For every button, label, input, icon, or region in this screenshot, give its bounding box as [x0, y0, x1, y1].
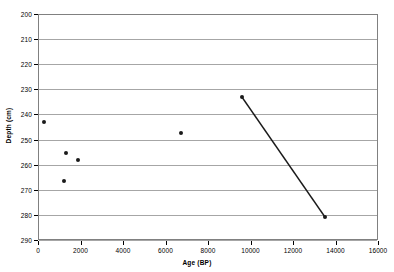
gridline-horizontal — [39, 165, 377, 166]
y-tick-label: 270 — [21, 186, 32, 193]
data-point — [64, 151, 68, 155]
plot-area — [38, 14, 378, 240]
x-tick-mark — [38, 241, 39, 245]
chart-container: Depth (cm) 20021022023024025026027028029… — [0, 0, 394, 272]
x-tick-label: 4000 — [116, 247, 131, 254]
y-tick-mark — [34, 114, 38, 115]
gridline-horizontal — [39, 140, 377, 141]
y-tick-label: 290 — [21, 237, 32, 244]
x-tick-label: 14000 — [326, 247, 345, 254]
y-tick-label: 200 — [21, 11, 32, 18]
data-point — [42, 120, 46, 124]
y-tick-label: 280 — [21, 211, 32, 218]
y-tick-label: 210 — [21, 36, 32, 43]
x-tick-mark — [81, 241, 82, 245]
y-tick-mark — [34, 215, 38, 216]
x-tick-mark — [166, 241, 167, 245]
y-axis-title: Depth (cm) — [5, 96, 12, 156]
y-tick-label: 260 — [21, 161, 32, 168]
data-point — [76, 158, 80, 162]
gridline-horizontal — [39, 190, 377, 191]
data-point — [240, 95, 244, 99]
data-point — [323, 215, 327, 219]
y-tick-mark — [34, 14, 38, 15]
y-tick-mark — [34, 89, 38, 90]
x-tick-label: 0 — [36, 247, 40, 254]
x-tick-mark — [293, 241, 294, 245]
y-tick-label: 230 — [21, 86, 32, 93]
y-tick-label: 250 — [21, 136, 32, 143]
y-tick-mark — [34, 140, 38, 141]
x-tick-label: 2000 — [73, 247, 88, 254]
y-tick-mark — [34, 39, 38, 40]
x-tick-label: 8000 — [201, 247, 216, 254]
x-tick-mark — [123, 241, 124, 245]
y-tick-label: 240 — [21, 111, 32, 118]
gridline-horizontal — [39, 39, 377, 40]
x-tick-mark — [251, 241, 252, 245]
y-tick-mark — [34, 64, 38, 65]
x-tick-label: 10000 — [241, 247, 260, 254]
data-point — [179, 131, 183, 135]
y-tick-mark — [34, 190, 38, 191]
y-tick-label: 220 — [21, 61, 32, 68]
x-tick-mark — [378, 241, 379, 245]
gridline-horizontal — [39, 64, 377, 65]
x-tick-mark — [208, 241, 209, 245]
gridline-horizontal — [39, 89, 377, 90]
x-axis-title: Age (BP) — [0, 259, 394, 266]
x-tick-label: 16000 — [369, 247, 388, 254]
gridline-horizontal — [39, 114, 377, 115]
x-tick-label: 6000 — [158, 247, 173, 254]
data-point — [62, 179, 66, 183]
y-tick-mark — [34, 165, 38, 166]
x-tick-mark — [336, 241, 337, 245]
x-tick-label: 12000 — [284, 247, 303, 254]
